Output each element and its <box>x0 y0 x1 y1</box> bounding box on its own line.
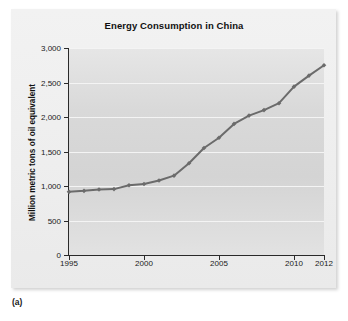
y-tick-label: 500 <box>48 216 61 225</box>
plot-area: 05001,0001,5002,0002,5003,000 1995200020… <box>68 48 324 256</box>
figure-caption: (a) <box>12 297 22 307</box>
y-tick-label: 3,000 <box>41 44 61 53</box>
data-point-marker <box>127 183 132 188</box>
data-point-marker <box>67 190 72 195</box>
x-tick-label: 1995 <box>60 259 78 268</box>
x-tick-label: 2005 <box>210 259 228 268</box>
y-axis-title: Million metric tons of oil equivalent <box>28 58 37 248</box>
x-tick-label: 2000 <box>135 259 153 268</box>
data-point-marker <box>97 187 102 192</box>
y-tick-label: 2,000 <box>41 113 61 122</box>
data-point-marker <box>142 182 147 187</box>
y-tick-label: 2,500 <box>41 78 61 87</box>
x-tick-label: 2012 <box>315 259 333 268</box>
figure-root: Energy Consumption in China Million metr… <box>0 0 348 321</box>
x-tick-label: 2010 <box>285 259 303 268</box>
y-tick-label: 1,000 <box>41 182 61 191</box>
line-series <box>69 48 324 255</box>
chart-title: Energy Consumption in China <box>0 20 348 31</box>
data-point-marker <box>112 187 117 192</box>
data-point-marker <box>82 189 87 194</box>
series-line <box>69 65 324 192</box>
data-point-marker <box>157 178 162 183</box>
y-tick-label: 1,500 <box>41 147 61 156</box>
